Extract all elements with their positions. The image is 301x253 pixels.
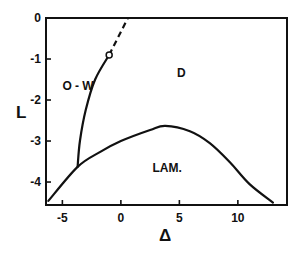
phase-boundaries <box>48 18 273 203</box>
y-tick-label: 0 <box>34 11 41 25</box>
x-tick-label: -5 <box>57 211 68 225</box>
x-tick-label: 0 <box>118 211 125 225</box>
dashed-boundary-line <box>109 18 128 55</box>
region-label: LAM. <box>152 161 181 175</box>
y-tick-label: -2 <box>30 93 41 107</box>
y-tick-label: -1 <box>30 52 41 66</box>
x-tick-label: 10 <box>231 211 245 225</box>
open-circle-marker <box>106 52 112 58</box>
y-axis-label: L <box>16 103 26 122</box>
x-axis-label: Δ <box>159 226 171 245</box>
x-tick-label: 5 <box>176 211 183 225</box>
axis-ticks: -505100-1-2-3-4 <box>30 11 245 225</box>
plot-border <box>46 18 287 205</box>
region-label: D <box>177 66 186 80</box>
region-label: O - W <box>62 79 94 93</box>
phase-diagram: -505100-1-2-3-4 O - WDLAM. L Δ <box>0 0 301 253</box>
y-tick-label: -3 <box>30 134 41 148</box>
region-labels: O - WDLAM. <box>62 66 186 174</box>
y-tick-label: -4 <box>30 175 41 189</box>
plot-frame <box>46 18 287 205</box>
